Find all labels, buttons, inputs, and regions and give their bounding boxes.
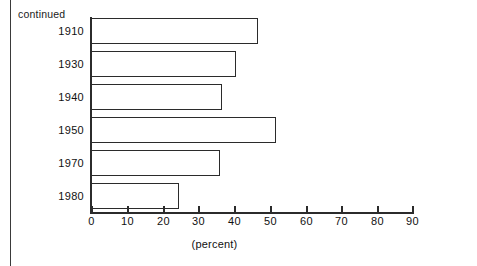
ytick-label-1950: 1950: [34, 124, 84, 136]
ytick-label-1930: 1930: [34, 58, 84, 70]
bar-1970: [92, 150, 220, 176]
bar-chart-plot-area: 1910 1930 1940 1950 1970 1980 0 10 20 30…: [0, 0, 477, 266]
xtick-label-90: 90: [399, 215, 426, 227]
xtick-mark-40: [234, 206, 236, 213]
ytick-label-1910: 1910: [34, 25, 84, 37]
xtick-label-30: 30: [185, 215, 212, 227]
bar-1950: [92, 117, 276, 143]
xtick-label-20: 20: [150, 215, 177, 227]
x-axis-title: (percent): [0, 238, 477, 250]
xtick-label-0: 0: [78, 215, 105, 227]
bar-1910: [92, 18, 258, 44]
xtick-mark-80: [377, 206, 379, 213]
xtick-label-50: 50: [257, 215, 284, 227]
xtick-label-10: 10: [114, 215, 141, 227]
xtick-label-60: 60: [293, 215, 320, 227]
ytick-label-1940: 1940: [34, 91, 84, 103]
xtick-mark-50: [270, 206, 272, 213]
xtick-mark-60: [306, 206, 308, 213]
bar-1940: [92, 84, 222, 110]
xtick-label-70: 70: [328, 215, 355, 227]
xtick-mark-10: [127, 206, 129, 213]
xtick-label-80: 80: [364, 215, 391, 227]
ytick-label-1970: 1970: [34, 157, 84, 169]
xtick-mark-0: [91, 206, 93, 213]
xtick-label-40: 40: [221, 215, 248, 227]
value-axis-line: [90, 212, 414, 214]
bar-1980: [92, 183, 179, 209]
bar-1930: [92, 51, 236, 77]
ytick-label-1980: 1980: [34, 190, 84, 202]
xtick-mark-90: [412, 206, 414, 213]
xtick-mark-30: [198, 206, 200, 213]
xtick-mark-20: [163, 206, 165, 213]
chart-page: continued 1910 1930 1940 1950 1970 1980 …: [0, 0, 477, 266]
x-axis-title-text: (percent): [192, 238, 238, 250]
xtick-mark-70: [341, 206, 343, 213]
